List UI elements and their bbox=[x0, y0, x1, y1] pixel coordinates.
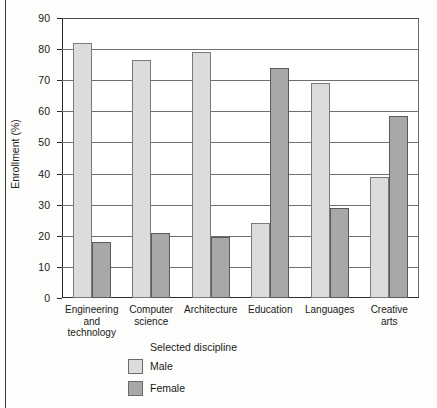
gridline bbox=[62, 267, 419, 268]
legend-swatch-male-icon bbox=[128, 359, 143, 374]
gridline bbox=[62, 205, 419, 206]
gridline bbox=[62, 49, 419, 50]
legend-item-male: Male bbox=[128, 357, 185, 375]
y-axis-tick-label: 30 bbox=[10, 200, 50, 211]
y-axis-tick-label: 0 bbox=[10, 293, 50, 304]
bar-female-5 bbox=[389, 116, 408, 298]
bar-male-5 bbox=[370, 177, 389, 298]
y-axis-tick bbox=[57, 111, 62, 112]
bar-male-2 bbox=[192, 52, 211, 298]
y-axis-tick-label: 70 bbox=[10, 75, 50, 86]
bar-female-1 bbox=[151, 233, 170, 298]
gridline bbox=[62, 174, 419, 175]
x-axis-label-5: Creativearts bbox=[349, 304, 429, 327]
bar-female-0 bbox=[92, 242, 111, 298]
chart-legend: Male Female bbox=[128, 357, 185, 401]
y-axis-tick-label: 90 bbox=[10, 13, 50, 24]
y-axis-tick-label: 10 bbox=[10, 262, 50, 273]
chart-page: Enrollment (%) 0102030405060708090 Engin… bbox=[0, 0, 437, 408]
y-axis-tick-label: 60 bbox=[10, 106, 50, 117]
bar-male-1 bbox=[132, 60, 151, 298]
plot-area bbox=[62, 18, 419, 298]
gridline bbox=[62, 111, 419, 112]
y-axis-tick-label: 40 bbox=[10, 169, 50, 180]
y-axis-tick bbox=[57, 18, 62, 19]
gridline bbox=[62, 142, 419, 143]
y-axis-tick-label: 50 bbox=[10, 137, 50, 148]
gridline bbox=[62, 236, 419, 237]
y-axis-tick bbox=[57, 236, 62, 237]
x-axis-title: Selected discipline bbox=[150, 341, 237, 353]
y-axis-tick bbox=[57, 174, 62, 175]
bar-male-3 bbox=[251, 223, 270, 298]
bar-male-0 bbox=[73, 43, 92, 298]
y-axis-tick bbox=[57, 267, 62, 268]
y-axis-tick bbox=[57, 298, 62, 299]
bar-female-3 bbox=[270, 68, 289, 298]
bar-female-2 bbox=[211, 237, 230, 298]
y-axis-tick-label: 80 bbox=[10, 44, 50, 55]
legend-item-female: Female bbox=[128, 379, 185, 397]
bar-female-4 bbox=[330, 208, 349, 298]
legend-label-male: Male bbox=[150, 360, 173, 372]
y-axis-tick bbox=[57, 205, 62, 206]
bar-male-4 bbox=[311, 83, 330, 298]
bar-chart: Enrollment (%) 0102030405060708090 Engin… bbox=[0, 0, 437, 408]
y-axis-tick bbox=[57, 142, 62, 143]
legend-swatch-female-icon bbox=[128, 381, 143, 396]
plot-frame bbox=[62, 18, 419, 298]
gridline bbox=[62, 80, 419, 81]
y-axis-tick-label: 20 bbox=[10, 231, 50, 242]
y-axis-tick bbox=[57, 80, 62, 81]
y-axis-tick bbox=[57, 49, 62, 50]
legend-label-female: Female bbox=[150, 382, 185, 394]
